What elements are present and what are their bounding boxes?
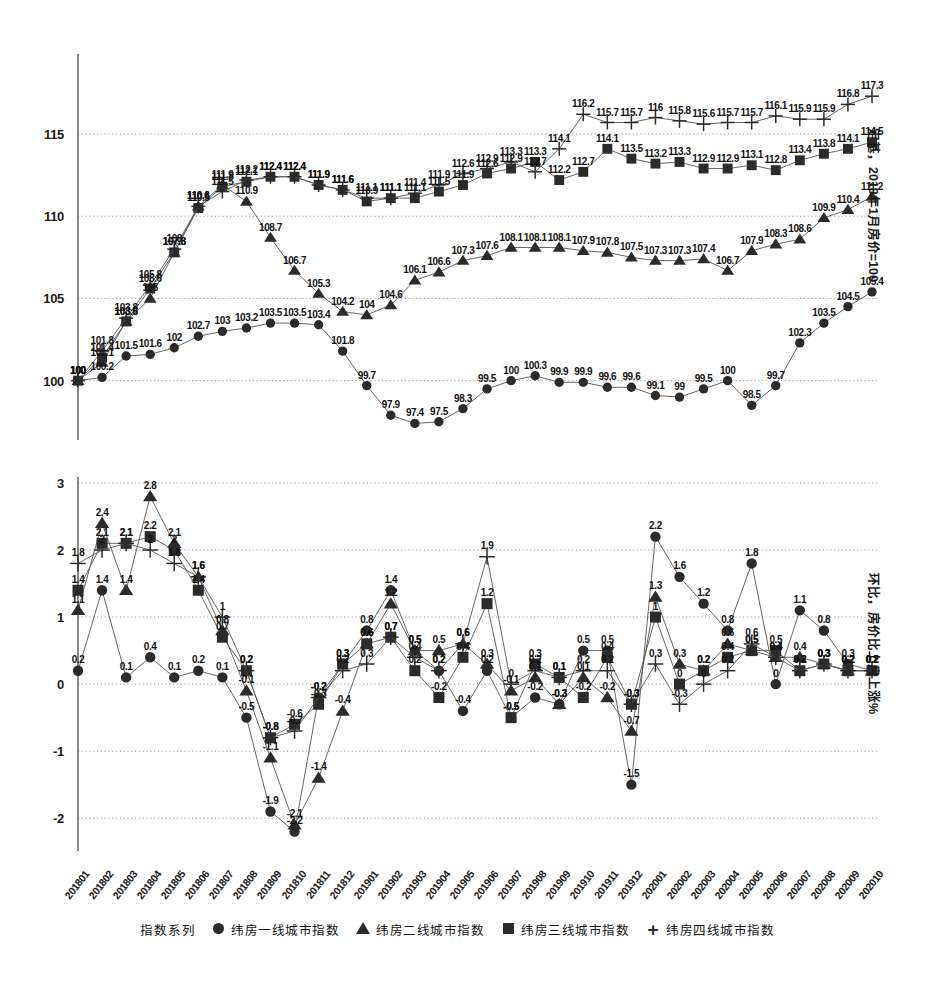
data-point-label: 2.2 xyxy=(649,521,662,531)
x-axis-tick: 201805 xyxy=(158,868,188,901)
data-point-label: 115.9 xyxy=(789,104,811,114)
data-point-label: 0.6 xyxy=(721,628,734,638)
data-point-label: -0.5 xyxy=(239,702,255,712)
index-chart-right-axis-title: 定基，2018年1月房价=100 xyxy=(865,128,884,282)
data-point-label: 115.6 xyxy=(692,109,714,119)
data-point-label: 1 xyxy=(653,602,658,612)
data-point-label: 100.3 xyxy=(524,361,547,371)
data-point-label: 112.2 xyxy=(548,165,570,175)
data-point-label: 112.2 xyxy=(235,165,257,175)
data-point-label: 112.9 xyxy=(716,154,738,164)
data-point-label: 108 xyxy=(166,234,182,244)
data-point-label: 99.6 xyxy=(622,372,640,382)
data-point-label: 111.4 xyxy=(404,178,426,188)
data-point-label: 113.2 xyxy=(644,149,666,159)
data-point-label: 110.6 xyxy=(187,191,209,201)
data-point-label: 99.6 xyxy=(598,372,616,382)
data-point-label: 98.3 xyxy=(454,394,472,404)
mom-chart-plot xyxy=(0,455,930,865)
data-point-label: 115.7 xyxy=(620,108,642,118)
data-point-label: 0.2 xyxy=(577,655,590,665)
data-point-label: 111.9 xyxy=(452,170,474,180)
data-point-label: 112.4 xyxy=(283,162,305,172)
x-axis-tick: 201808 xyxy=(230,868,260,901)
square-marker-icon xyxy=(500,923,516,937)
x-axis-tick: 202010 xyxy=(856,868,886,901)
data-point-label: 107.6 xyxy=(476,241,499,251)
data-point-label: 112.9 xyxy=(476,154,498,164)
x-axis-tick: 201801 xyxy=(62,868,92,901)
data-point-label: 112.7 xyxy=(572,157,594,167)
data-point-label: 1.8 xyxy=(72,548,85,558)
data-point-label: 0.2 xyxy=(697,655,710,665)
data-point-label: 102.7 xyxy=(187,321,210,331)
data-point-label: 0 xyxy=(773,669,778,679)
data-point-label: 0.3 xyxy=(649,649,662,659)
data-point-label: 0.4 xyxy=(769,642,782,652)
data-point-label: 0.4 xyxy=(457,642,470,652)
data-point-label: 108.3 xyxy=(764,229,787,239)
legend-item-tier2[interactable]: 纬房二线城市指数 xyxy=(355,920,484,939)
x-axis-tick: 201904 xyxy=(423,868,453,901)
data-point-label: 1.2 xyxy=(384,588,397,598)
legend-item-label: 纬房四线城市指数 xyxy=(666,920,774,939)
data-point-label: -0.4 xyxy=(455,695,471,705)
data-point-label: 103.4 xyxy=(307,310,330,320)
data-point-label: 107.3 xyxy=(451,246,474,256)
data-point-label: 0.2 xyxy=(601,655,614,665)
data-point-label: 116.2 xyxy=(572,99,594,109)
data-point-label: 2.8 xyxy=(144,481,157,491)
data-point-label: 97.9 xyxy=(382,400,400,410)
data-point-label: 0.1 xyxy=(216,662,229,672)
data-point-label: 107.3 xyxy=(644,246,667,256)
legend-item-tier1[interactable]: 纬房一线城市指数 xyxy=(210,920,339,939)
data-point-label: 112.8 xyxy=(765,155,787,165)
data-point-label: -0.3 xyxy=(672,689,688,699)
data-point-label: 115.7 xyxy=(740,108,762,118)
data-point-label: 0.1 xyxy=(120,662,133,672)
y-axis-tick: 105 xyxy=(30,291,64,306)
data-point-label: 1.3 xyxy=(649,581,662,591)
x-axis-tick: 201802 xyxy=(86,868,116,901)
data-point-label: 107.8 xyxy=(596,237,619,247)
legend-item-tier4[interactable]: + 纬房四线城市指数 xyxy=(645,920,774,939)
data-point-label: 99.7 xyxy=(358,371,376,381)
data-point-label: 0.5 xyxy=(577,635,590,645)
data-point-label: 103 xyxy=(215,316,231,326)
data-point-label: 0.3 xyxy=(818,649,831,659)
data-point-label: 101.8 xyxy=(331,336,354,346)
x-axis-tick: 201909 xyxy=(543,868,573,901)
chart-page: 100105110115 100100.2101.5101.6102102.71… xyxy=(0,0,930,981)
data-point-label: 0.2 xyxy=(433,655,446,665)
data-point-label: 105 xyxy=(142,283,158,293)
data-point-label: -0.7 xyxy=(624,716,640,726)
data-point-label: -0.2 xyxy=(600,682,616,692)
data-point-label: -2.1 xyxy=(287,809,303,819)
data-point-label: 0.1 xyxy=(553,662,566,672)
y-axis-tick: 0 xyxy=(30,677,64,692)
x-axis-tick: 201807 xyxy=(206,868,236,901)
data-point-label: 112.9 xyxy=(692,154,714,164)
data-point-label: -0.2 xyxy=(527,682,543,692)
data-point-label: 104.6 xyxy=(379,290,402,300)
data-point-label: 0.6 xyxy=(745,628,758,638)
data-point-label: 101.6 xyxy=(139,339,162,349)
legend-item-tier3[interactable]: 纬房三线城市指数 xyxy=(500,920,629,939)
data-point-label: 107.4 xyxy=(692,244,715,254)
data-point-label: 1.4 xyxy=(192,575,205,585)
data-point-label: 0.8 xyxy=(721,615,734,625)
data-point-label: 0.2 xyxy=(192,655,205,665)
data-point-label: 0.2 xyxy=(793,655,806,665)
data-point-label: 1.4 xyxy=(72,575,85,585)
y-axis-tick: -1 xyxy=(30,744,64,759)
data-point-label: 1 xyxy=(220,602,225,612)
data-point-label: 0.3 xyxy=(360,649,373,659)
data-point-label: 1.6 xyxy=(192,561,205,571)
y-axis-tick: -2 xyxy=(30,811,64,826)
data-point-label: 2.2 xyxy=(144,521,157,531)
data-point-label: 112.4 xyxy=(259,162,281,172)
data-point-label: 0.4 xyxy=(793,642,806,652)
data-point-label: 102 xyxy=(166,333,182,343)
data-point-label: 1.1 xyxy=(793,595,806,605)
data-point-label: 0.2 xyxy=(408,655,421,665)
